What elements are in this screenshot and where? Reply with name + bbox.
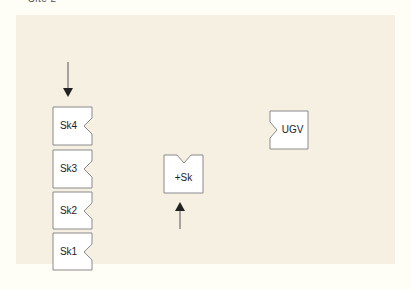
sk3-label: Sk3 bbox=[53, 163, 84, 175]
ugv-label: UGV bbox=[277, 124, 308, 136]
sk2-label: Sk2 bbox=[53, 205, 84, 217]
sk4-label: Sk4 bbox=[53, 120, 84, 132]
plus-sk-label: +Sk bbox=[164, 172, 203, 184]
arrow-up-icon bbox=[175, 202, 185, 229]
sk1-label: Sk1 bbox=[53, 246, 84, 258]
arrow-down-icon bbox=[63, 62, 73, 97]
